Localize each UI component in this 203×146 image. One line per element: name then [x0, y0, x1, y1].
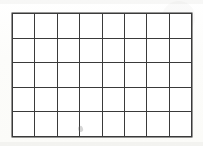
table-row[interactable]: [13, 63, 192, 88]
grid-cell[interactable]: [124, 38, 146, 63]
grid-cell[interactable]: [80, 38, 102, 63]
table-row[interactable]: [13, 14, 192, 39]
grid-cell[interactable]: [102, 112, 124, 137]
grid-cell[interactable]: [169, 87, 191, 112]
table-row[interactable]: [13, 38, 192, 63]
grid-cell[interactable]: [35, 63, 57, 88]
grid-cell[interactable]: [13, 87, 35, 112]
grid-cell[interactable]: [13, 38, 35, 63]
grid-cell[interactable]: [169, 63, 191, 88]
grid-cell[interactable]: [147, 87, 169, 112]
grid-cell[interactable]: [147, 38, 169, 63]
grid-worksheet-page: [0, 0, 203, 146]
grid-cell[interactable]: [169, 14, 191, 39]
grid-cell[interactable]: [57, 112, 79, 137]
grid-table-body: [13, 14, 192, 137]
grid-cell[interactable]: [124, 63, 146, 88]
grid-cell[interactable]: [80, 112, 102, 137]
table-row[interactable]: [13, 112, 192, 137]
grid-cell[interactable]: [13, 63, 35, 88]
grid-cell[interactable]: [147, 63, 169, 88]
table-row[interactable]: [13, 87, 192, 112]
grid-cell[interactable]: [35, 14, 57, 39]
grid-cell[interactable]: [35, 112, 57, 137]
grid-cell[interactable]: [57, 63, 79, 88]
grid-cell[interactable]: [124, 112, 146, 137]
grid-cell[interactable]: [102, 38, 124, 63]
grid-cell[interactable]: [13, 14, 35, 39]
grid-cell[interactable]: [80, 87, 102, 112]
grid-cell[interactable]: [57, 87, 79, 112]
grid-cell[interactable]: [147, 112, 169, 137]
grid-cell[interactable]: [147, 14, 169, 39]
grid-cell[interactable]: [35, 38, 57, 63]
grid-cell[interactable]: [102, 87, 124, 112]
grid-cell[interactable]: [124, 14, 146, 39]
grid-cell[interactable]: [102, 63, 124, 88]
scan-edge-fade-top: [0, 0, 203, 4]
grid-table[interactable]: [12, 13, 192, 137]
grid-cell[interactable]: [35, 87, 57, 112]
grid-cell[interactable]: [80, 14, 102, 39]
grid-cell[interactable]: [169, 38, 191, 63]
scan-edge-fade-bottom: [0, 142, 203, 146]
grid-cell[interactable]: [169, 112, 191, 137]
grid-cell[interactable]: [124, 87, 146, 112]
grid-cell[interactable]: [57, 14, 79, 39]
grid-cell[interactable]: [57, 38, 79, 63]
grid-cell[interactable]: [102, 14, 124, 39]
grid-cell[interactable]: [13, 112, 35, 137]
grid-cell[interactable]: [80, 63, 102, 88]
